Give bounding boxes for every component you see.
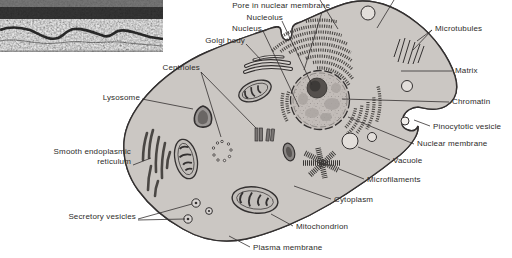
electron-micrograph-inset <box>0 0 163 52</box>
pinocytotic-vesicle-circle <box>401 117 409 125</box>
cell-diagram-artwork <box>0 0 512 258</box>
leader-line <box>414 120 430 126</box>
nucleus <box>291 71 350 130</box>
cell-diagram-figure: Pore in nuclear membraneNucleolusNucleus… <box>0 0 512 258</box>
lysosome <box>194 106 211 127</box>
